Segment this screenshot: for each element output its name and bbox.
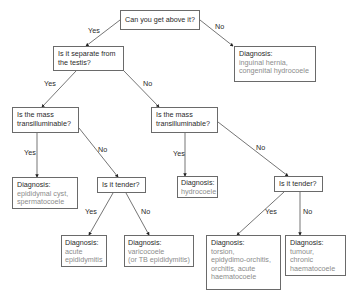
edge-label-yes: Yes <box>44 80 56 88</box>
diagnosis-tumour: Diagnosis: tumour, chronic haematocoele <box>285 235 346 276</box>
diagnosis-varicocoele: Diagnosis: varicocoele (or TB epididymit… <box>124 235 194 267</box>
diagnosis-torsion: Diagnosis: torsion, epidydimo-orchitis, … <box>206 235 281 290</box>
question-can-you-get-above: Can you get above it? <box>120 10 200 30</box>
edge-label-no: No <box>143 80 152 88</box>
edge-label-yes: Yes <box>173 150 185 158</box>
edge-label-yes: Yes <box>85 208 97 216</box>
question-transilluminable-left: Is the mass transilluminable? <box>12 107 79 133</box>
edge-separate-yes <box>42 71 76 107</box>
edge-label-no: No <box>215 23 224 31</box>
edge-transR-no <box>218 122 288 176</box>
edge-label-yes: Yes <box>265 208 277 216</box>
diagnosis-hydrocoele: Diagnosis: hydrocoele <box>177 176 218 198</box>
question-separate-from-testis: Is it separate from the testis? <box>53 46 124 71</box>
question-tender-right: Is it tender? <box>274 176 323 192</box>
edge-label-no: No <box>98 146 107 154</box>
edge-label-no: No <box>303 208 312 216</box>
edge-label-no: No <box>256 144 265 152</box>
edge-label-no: No <box>141 208 150 216</box>
edge-label-yes: Yes <box>88 27 100 35</box>
question-tender-left: Is it tender? <box>97 177 146 193</box>
diagnosis-epididymal-cyst: Diagnosis: epididymal cyst, spermatocoel… <box>12 177 78 209</box>
edge-separate-no <box>124 71 159 107</box>
edge-label-yes: Yes <box>24 149 36 157</box>
question-transilluminable-right: Is the mass transilluminable? <box>151 107 218 133</box>
diagnosis-inguinal-hernia: Diagnosis: inguinal hernia, congenital h… <box>234 46 316 82</box>
diagnosis-acute-epididymitis: Diagnosis: acute epididymitis <box>61 235 107 267</box>
